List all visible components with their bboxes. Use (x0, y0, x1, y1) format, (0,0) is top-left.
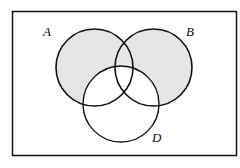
label-b: B (186, 24, 194, 39)
venn-diagram: A B D (0, 0, 240, 168)
label-d: D (151, 130, 162, 145)
label-a: A (42, 24, 51, 39)
